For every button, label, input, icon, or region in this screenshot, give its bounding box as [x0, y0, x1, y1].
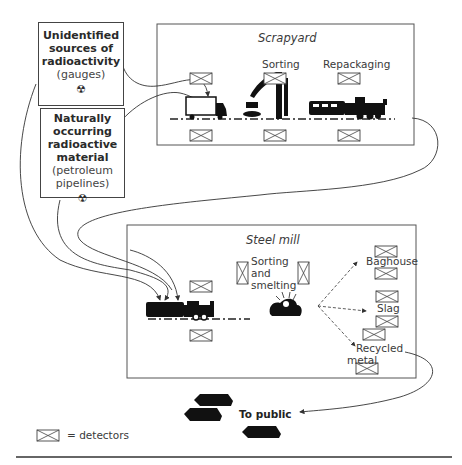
- detector-icon: [298, 262, 309, 284]
- legend-text: = detectors: [67, 429, 129, 441]
- source-subtitle: (gauges): [39, 68, 123, 81]
- output-label-recycled-metal: Recycled metal: [347, 342, 403, 366]
- detector-icon: [376, 291, 398, 302]
- source-box-gauges: Unidentified sources of radioactivity (g…: [38, 22, 124, 106]
- output-label-baghouse: Baghouse: [366, 255, 418, 267]
- detector-icon: [338, 73, 360, 84]
- source-title-line: radioactive: [41, 138, 124, 151]
- source-subtitle: pipelines): [41, 177, 124, 190]
- detector-icon: [264, 73, 286, 84]
- radiation-hazard-icon: ☢: [41, 192, 124, 205]
- source-title-line: Unidentified: [39, 29, 123, 42]
- furnace-icon: [270, 292, 302, 316]
- detector-icon: [264, 130, 286, 141]
- source-title-line: occurring: [41, 125, 124, 138]
- stage-label-sorting: Sorting: [262, 58, 300, 70]
- legend-detector-icon: [37, 430, 59, 441]
- output-label-line: metal: [347, 354, 403, 366]
- truck-icon: [186, 97, 227, 120]
- divider: [16, 456, 452, 458]
- process-label-line: smelting: [251, 279, 296, 291]
- source-title-line: material: [41, 151, 124, 164]
- detector-icon: [363, 329, 385, 340]
- detector-icon: [237, 262, 248, 284]
- detector-icon: [190, 330, 212, 341]
- output-label-line: Recycled: [347, 342, 403, 354]
- process-label-line: and: [251, 267, 296, 279]
- source-title-line: sources of: [39, 42, 123, 55]
- stage-label-repackaging: Repackaging: [323, 58, 390, 70]
- source-box-norm: Naturally occurring radioactive material…: [40, 108, 125, 198]
- scrapyard-title: Scrapyard: [258, 31, 317, 45]
- source-subtitle: (petroleum: [41, 164, 124, 177]
- steel-mill-title: Steel mill: [246, 233, 300, 247]
- detector-icon: [376, 316, 398, 327]
- radiation-hazard-icon: ☢: [39, 83, 123, 96]
- detector-icon: [338, 130, 360, 141]
- steel-mill-train-icon: [146, 301, 214, 320]
- to-public-label: To public: [239, 408, 292, 420]
- source-title-line: radioactivity: [39, 55, 123, 68]
- train-icon: [309, 97, 387, 120]
- detector-icon: [190, 281, 212, 292]
- process-label-line: Sorting: [251, 255, 296, 267]
- process-label: Sorting and smelting: [251, 255, 296, 291]
- source-title-line: Naturally: [41, 112, 124, 125]
- output-label-slag: Slag: [377, 302, 400, 314]
- detector-icon: [375, 268, 397, 279]
- detector-icon: [190, 130, 212, 141]
- detector-icon: [190, 73, 212, 84]
